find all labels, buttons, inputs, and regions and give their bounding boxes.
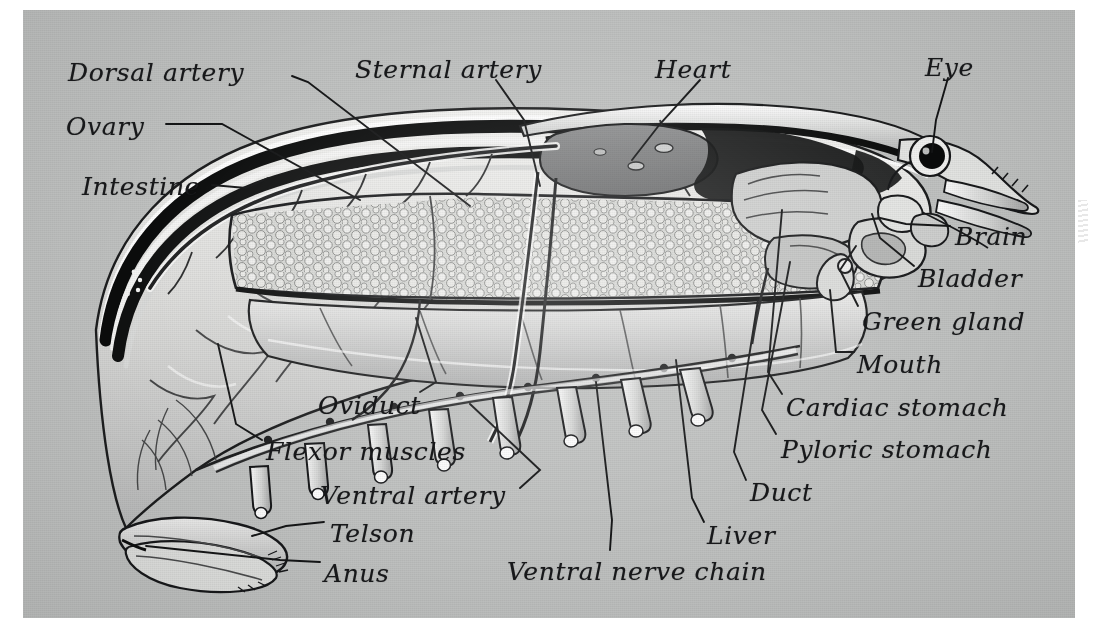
label-ovary: Ovary <box>66 112 145 141</box>
label-sternal-artery: Sternal artery <box>355 55 542 84</box>
label-heart: Heart <box>655 55 732 84</box>
label-intestine: Intestine <box>82 172 200 201</box>
anatomy-plate: Dorsal arterySternal arteryHeartEyeOvary… <box>0 0 1094 637</box>
label-cardiac-stomach: Cardiac stomach <box>786 393 1008 422</box>
label-bladder: Bladder <box>918 264 1022 293</box>
label-ventral-artery: Ventral artery <box>320 481 506 510</box>
label-liver: Liver <box>707 521 775 550</box>
label-pyloric-stomach: Pyloric stomach <box>781 435 993 464</box>
label-mouth: Mouth <box>857 350 943 379</box>
label-anus: Anus <box>324 559 390 588</box>
label-ventral-nerve-chain: Ventral nerve chain <box>507 557 767 586</box>
label-green-gland: Green gland <box>862 307 1025 336</box>
label-dorsal-artery: Dorsal artery <box>68 58 244 87</box>
label-duct: Duct <box>750 478 813 507</box>
margin-mark <box>1078 200 1088 244</box>
label-telson: Telson <box>330 519 415 548</box>
label-flexor-muscles: Flexor muscles <box>266 437 466 466</box>
label-eye: Eye <box>925 53 974 82</box>
label-brain: Brain <box>955 222 1027 251</box>
label-oviduct: Oviduct <box>318 391 421 420</box>
